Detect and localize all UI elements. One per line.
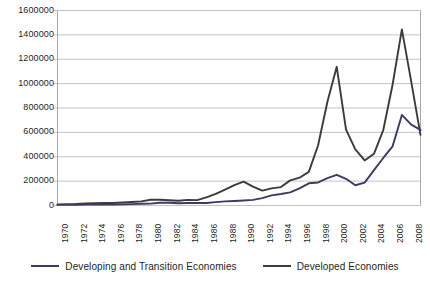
x-axis-tick-label: 1996 (303, 224, 312, 243)
chart-legend: Developing and Transition EconomiesDevel… (0, 256, 430, 276)
x-axis-tick-label: 1992 (266, 224, 275, 243)
x-axis-tick-label: 2008 (415, 224, 424, 243)
x-axis-tick-label: 1994 (284, 224, 293, 243)
legend-item-label: Developed Economies (297, 261, 399, 272)
x-axis-tick-label: 1986 (210, 224, 219, 243)
x-axis-tick-label: 2000 (340, 224, 349, 243)
legend-line-swatch (263, 265, 291, 267)
x-axis-tick-label: 1982 (173, 224, 182, 243)
x-axis-tick-label: 1970 (61, 224, 70, 243)
x-axis-tick-label: 1990 (247, 224, 256, 243)
legend-item-label: Developing and Transition Economies (65, 261, 236, 272)
x-axis-tick-label: 2004 (377, 224, 386, 243)
legend-item: Developed Economies (263, 261, 399, 272)
x-axis-tick-label: 1998 (322, 224, 331, 243)
x-axis-tick-labels: 1970197219741976197819801982198419861988… (0, 0, 430, 287)
x-axis-tick-label: 1972 (80, 224, 89, 243)
x-axis-tick-label: 1980 (154, 224, 163, 243)
legend-line-swatch (31, 265, 59, 267)
x-axis-tick-label: 1974 (98, 224, 107, 243)
x-axis-tick-label: 2002 (359, 224, 368, 243)
x-axis-tick-label: 1978 (135, 224, 144, 243)
x-axis-tick-label: 1976 (117, 224, 126, 243)
x-axis-tick-label: 1988 (229, 224, 238, 243)
legend-item: Developing and Transition Economies (31, 261, 236, 272)
x-axis-tick-label: 2006 (396, 224, 405, 243)
x-axis-tick-label: 1984 (191, 224, 200, 243)
line-chart: 0200000400000600000800000100000012000001… (0, 0, 430, 287)
